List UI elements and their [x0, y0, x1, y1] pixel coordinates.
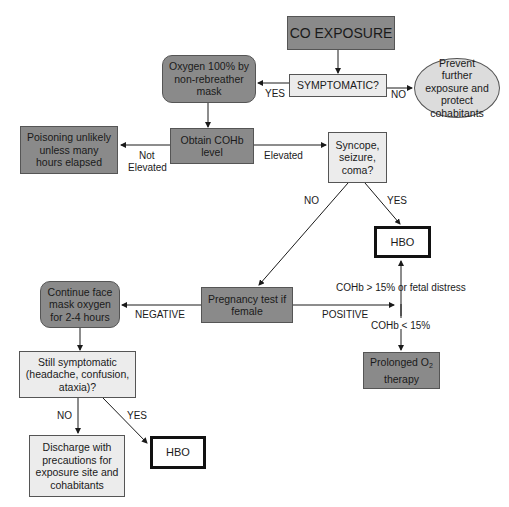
edge-label-cohb-low: COHb < 15% — [371, 320, 430, 331]
edge-label-still-no: NO — [57, 410, 72, 421]
poisoning-unlikely-node: Poisoning unlikely unless many hours ela… — [20, 126, 118, 174]
prolonged-o2-label: Prolonged O2 — [370, 356, 433, 373]
still-symptomatic-decision: Still symptomatic (headache, confusion, … — [19, 351, 136, 398]
edge-label-no: NO — [391, 89, 406, 100]
hbo-top-node: HBO — [374, 226, 431, 258]
prevent-exposure-label: Prevent further exposure and protect coh… — [423, 57, 491, 120]
edge-label-syncope-no: NO — [304, 195, 319, 206]
pregnancy-test-label: Pregnancy test if female — [206, 293, 288, 318]
edge-label-still-yes: YES — [127, 410, 147, 421]
still-symptomatic-label: Still symptomatic (headache, confusion, … — [24, 356, 131, 394]
oxygen-label: Oxygen 100% by non-rebreather mask — [167, 60, 251, 98]
edge-label-elevated: Elevated — [264, 150, 303, 161]
syncope-decision: Syncope, seizure, coma? — [328, 132, 387, 183]
edge-label-yes: YES — [265, 88, 285, 99]
edge-label-cohb-high: COHb > 15% or fetal distress — [336, 282, 466, 293]
prolonged-o2-label-line2: therapy — [384, 373, 419, 386]
poisoning-unlikely-label: Poisoning unlikely unless many hours ela… — [25, 131, 113, 169]
prevent-exposure-node: Prevent further exposure and protect coh… — [414, 58, 500, 118]
syncope-label: Syncope, seizure, coma? — [335, 139, 380, 177]
edge-label-negative: NEGATIVE — [135, 309, 185, 320]
pregnancy-test-node: Pregnancy test if female — [201, 287, 293, 323]
co-exposure-node: CO EXPOSURE — [287, 16, 395, 50]
obtain-cohb-label: Obtain COHb level — [179, 134, 245, 159]
discharge-label: Discharge with precautions for exposure … — [34, 441, 120, 491]
co-exposure-label: CO EXPOSURE — [290, 27, 393, 40]
prolonged-o2-node: Prolonged O2 therapy — [363, 352, 440, 389]
edge-label-not-elevated: Elevated — [128, 162, 167, 173]
continue-oxygen-node: Continue face mask oxygen for 2-4 hours — [40, 281, 120, 328]
oxygen-node: Oxygen 100% by non-rebreather mask — [162, 55, 256, 103]
edge-label-positive: POSITIVE — [322, 309, 368, 320]
edge-label-not: Not — [139, 150, 155, 161]
hbo-bottom-label: HBO — [166, 446, 190, 459]
symptomatic-label: SYMPTOMATIC? — [297, 79, 379, 92]
hbo-top-label: HBO — [391, 236, 415, 249]
hbo-bottom-node: HBO — [150, 436, 206, 469]
edge-label-syncope-yes: YES — [387, 195, 407, 206]
obtain-cohb-node: Obtain COHb level — [170, 128, 254, 164]
continue-oxygen-label: Continue face mask oxygen for 2-4 hours — [45, 286, 115, 324]
discharge-node: Discharge with precautions for exposure … — [29, 435, 125, 497]
symptomatic-decision: SYMPTOMATIC? — [289, 74, 387, 97]
